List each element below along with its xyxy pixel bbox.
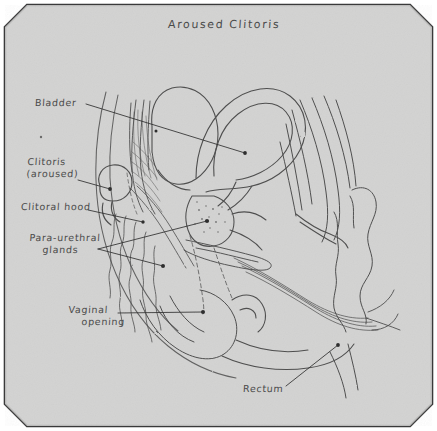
label-para-urethral-line1: Para-urethral	[29, 232, 101, 244]
label-clitoris-line1: Clitoris	[27, 156, 80, 168]
label-vaginal-line1: Vaginal	[68, 304, 126, 316]
anatomy-sketch-canvas	[0, 0, 437, 431]
label-clitoris: Clitoris (aroused)	[26, 156, 80, 180]
label-clitoral-hood: Clitoral hood	[21, 201, 91, 213]
label-vaginal-line2: opening	[81, 316, 125, 328]
page-title: Aroused Clitoris	[168, 19, 281, 31]
sketch-page: Aroused Clitoris Bladder Clitoris (arous…	[0, 0, 437, 431]
label-vaginal-opening: Vaginal opening	[67, 304, 126, 328]
label-rectum: Rectum	[243, 383, 284, 395]
label-para-urethral-line2: glands	[42, 244, 100, 256]
label-para-urethral-glands: Para-urethral glands	[28, 232, 101, 256]
label-clitoris-line2: (aroused)	[26, 168, 79, 180]
label-bladder: Bladder	[35, 97, 78, 109]
